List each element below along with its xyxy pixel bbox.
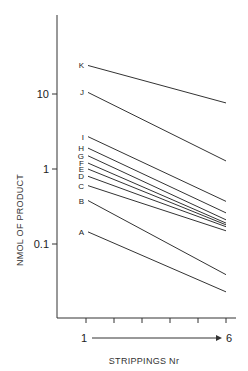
x-start-label: 1 <box>81 332 87 344</box>
series-line-f <box>88 163 226 223</box>
series-label-a: A <box>79 228 85 237</box>
x-end-label: 6 <box>226 332 232 344</box>
series-line-k <box>88 65 226 102</box>
x-axis-title: STRIPPINGS Nr <box>109 356 179 366</box>
series-line-g <box>88 156 226 220</box>
series-label-b: B <box>79 197 84 206</box>
series-line-h <box>88 148 226 213</box>
series-line-c <box>88 186 226 231</box>
series-line-i <box>88 137 226 202</box>
series-line-e <box>88 169 226 225</box>
series-line-d <box>88 176 226 226</box>
series-label-c: C <box>78 182 84 191</box>
series-line-b <box>88 201 226 275</box>
chart: 1010.1 KJIHGFEDCBA 1 6 STRIPPINGS Nr NMO… <box>0 0 248 371</box>
arrow-head-icon <box>216 335 222 341</box>
y-tick-label: 0.1 <box>34 238 49 250</box>
x-range-arrow: 1 6 <box>81 332 232 344</box>
y-ticks: 1010.1 <box>34 88 57 250</box>
y-tick-label: 1 <box>43 163 49 175</box>
series-label-i: I <box>82 133 84 142</box>
x-ticks <box>86 318 226 323</box>
series-line-a <box>88 232 226 292</box>
series-label-k: K <box>79 61 85 70</box>
series-label-j: J <box>80 88 84 97</box>
y-axis-title: NMOL OF PRODUCT <box>15 174 25 266</box>
series-lines: KJIHGFEDCBA <box>78 61 226 291</box>
y-tick-label: 10 <box>37 88 49 100</box>
series-line-j <box>88 92 226 161</box>
series-label-d: D <box>78 172 84 181</box>
